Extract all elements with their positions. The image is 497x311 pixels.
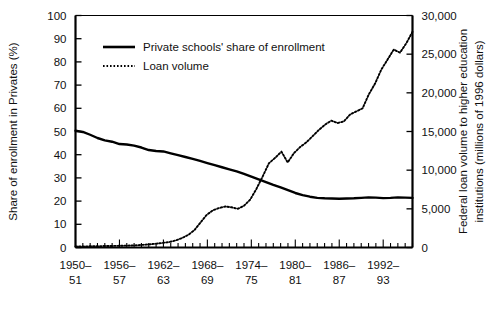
x-tick-label-top: 1974– [235, 259, 268, 271]
x-tick-label-bottom: 81 [289, 274, 302, 286]
y-tick-label-right: 15,000 [422, 126, 457, 138]
x-tick-label-bottom: 63 [157, 274, 170, 286]
y-tick-label-left: 80 [54, 56, 67, 68]
y-tick-label-right: 0 [422, 242, 428, 254]
line-chart: 010203040506070809010005,00010,00015,000… [0, 0, 497, 311]
y-tick-label-right: 20,000 [422, 87, 457, 99]
y-tick-label-left: 90 [54, 33, 67, 45]
y-axis-title-right-line1: Federal loan volume to higher education [457, 29, 469, 234]
y-tick-label-right: 5,000 [422, 203, 451, 215]
y-tick-label-left: 60 [54, 102, 67, 114]
x-tick-label-bottom: 69 [201, 274, 214, 286]
x-tick-label-top: 1956– [103, 259, 136, 271]
y-tick-label-left: 0 [60, 242, 66, 254]
y-tick-label-left: 100 [47, 10, 66, 22]
legend-label-private-share: Private schools' share of enrollment [143, 41, 326, 53]
x-tick-label-bottom: 93 [377, 274, 390, 286]
x-tick-label-bottom: 87 [333, 274, 346, 286]
x-tick-label-top: 1992– [367, 259, 400, 271]
x-tick-label-bottom: 75 [245, 274, 258, 286]
series-line-private-share [76, 131, 413, 199]
y-tick-label-left: 40 [54, 149, 67, 161]
y-axis-title-left: Share of enrollment in Privates (%) [7, 42, 19, 220]
x-tick-label-top: 1950– [60, 259, 93, 271]
x-tick-label-bottom: 51 [69, 274, 82, 286]
y-tick-label-right: 10,000 [422, 164, 457, 176]
series-line-loan-volume [76, 32, 413, 247]
x-tick-label-top: 1980– [279, 259, 312, 271]
y-tick-label-left: 10 [54, 218, 67, 230]
x-tick-label-top: 1968– [191, 259, 224, 271]
y-axis-title-right-line2: institutions (millions of 1996 dollars) [473, 40, 485, 222]
y-tick-label-left: 50 [54, 126, 67, 138]
x-tick-label-top: 1986– [323, 259, 356, 271]
y-tick-label-right: 30,000 [422, 10, 457, 22]
chart-figure: 010203040506070809010005,00010,00015,000… [0, 0, 497, 311]
y-tick-label-left: 20 [54, 195, 67, 207]
y-tick-label-left: 30 [54, 172, 67, 184]
y-tick-label-left: 70 [54, 79, 67, 91]
x-tick-label-bottom: 57 [113, 274, 126, 286]
legend-label-loan-volume: Loan volume [143, 60, 209, 72]
y-tick-label-right: 25,000 [422, 48, 457, 60]
x-tick-label-top: 1962– [147, 259, 180, 271]
